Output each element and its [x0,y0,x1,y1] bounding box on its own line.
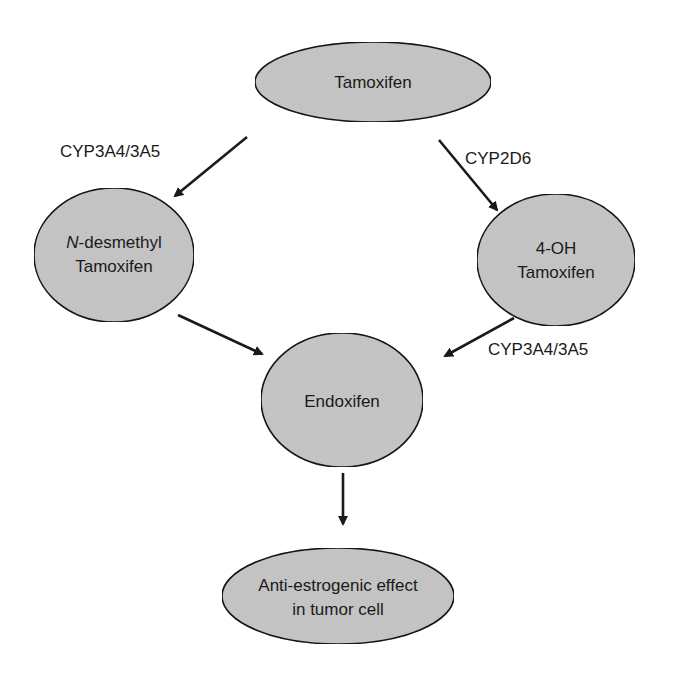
arrow-n-desmethyl-to-endoxifen [178,315,262,354]
node-anti-estrogenic-effect: Anti-estrogenic effect in tumor cell [222,548,454,644]
italic-n: N [66,233,79,252]
node-4-oh-ellipse [477,194,635,326]
node-4-oh-label-line1: 4-OH [536,239,577,258]
node-tamoxifen-label: Tamoxifen [334,73,411,92]
node-effect-label-line1: Anti-estrogenic effect [258,576,418,595]
node-endoxifen-label: Endoxifen [304,392,380,411]
node-effect-ellipse [222,548,454,644]
node-effect-label-line2: in tumor cell [292,600,384,619]
node-tamoxifen: Tamoxifen [255,42,491,122]
desmethyl-text: -desmethyl [79,233,162,252]
arrow-tamoxifen-to-n-desmethyl [175,137,247,196]
node-n-desmethyl-label-line1: N-desmethyl [66,233,161,252]
edge-label-cyp3a4-3a5-left: CYP3A4/3A5 [60,142,160,161]
node-n-desmethyl-ellipse [34,188,194,322]
tamoxifen-metabolism-diagram: Tamoxifen N-desmethyl Tamoxifen 4-OH Tam… [0,0,674,683]
node-n-desmethyl-tamoxifen: N-desmethyl Tamoxifen [34,188,194,322]
node-n-desmethyl-label-line2: Tamoxifen [75,257,152,276]
edge-label-cyp2d6: CYP2D6 [465,149,531,168]
node-4-oh-tamoxifen: 4-OH Tamoxifen [477,194,635,326]
node-endoxifen: Endoxifen [261,333,423,467]
node-4-oh-label-line2: Tamoxifen [517,263,594,282]
edge-label-cyp3a4-3a5-right: CYP3A4/3A5 [488,340,588,359]
